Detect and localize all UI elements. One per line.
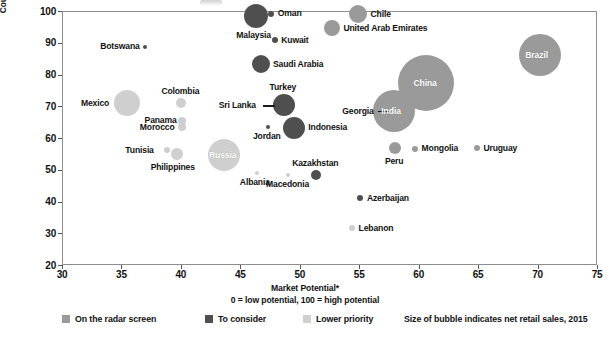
bubble-label-china: China — [413, 78, 436, 88]
legend-size-note: Size of bubble indicates net retail sale… — [404, 314, 588, 324]
x-tick-mark-65 — [478, 265, 479, 269]
x-tick-mark-60 — [419, 265, 420, 269]
bubble-label-russia: Russia — [209, 150, 237, 160]
bubble-label-georgia: Georgia — [342, 106, 373, 116]
x-tick-label-70: 70 — [523, 269, 553, 280]
x-tick-mark-75 — [597, 265, 598, 269]
bubble-botswana[interactable] — [143, 45, 147, 49]
bubble-label-peru: Peru — [385, 156, 404, 166]
legend-item-radar[interactable]: On the radar screen — [62, 314, 156, 324]
x-tick-mark-35 — [121, 265, 122, 269]
bubble-label-turkey: Turkey — [270, 82, 297, 92]
y-tick-label-40: 40 — [30, 196, 56, 207]
page-bottom-edge — [0, 335, 610, 344]
bubble-label-azerbaijan: Azerbaijan — [367, 193, 409, 203]
bubble-label-mexico: Mexico — [81, 98, 109, 108]
bubble-label-united-arab-emirates: United Arab Emirates — [343, 23, 427, 33]
y-tick-label-30: 30 — [30, 228, 56, 239]
bubble-label-uruguay: Uruguay — [483, 143, 517, 153]
bubble-jordan[interactable] — [266, 125, 270, 129]
bubble-tunisia[interactable] — [164, 147, 170, 153]
bubble-kazakhstan[interactable] — [311, 170, 321, 180]
bubble-indonesia[interactable] — [283, 117, 305, 139]
bubble-macedonia[interactable] — [286, 173, 290, 177]
x-tick-mark-50 — [300, 265, 301, 269]
x-tick-label-30: 30 — [47, 269, 77, 280]
bubble-label-mongolia: Mongolia — [422, 143, 459, 153]
x-axis-title: Market Potential* 0 = low potential, 100… — [0, 283, 610, 306]
x-tick-label-65: 65 — [463, 269, 493, 280]
bubble-albania[interactable] — [255, 171, 259, 175]
bubble-label-morocco: Morocco — [140, 122, 175, 132]
bubble-kuwait[interactable] — [272, 37, 278, 43]
bubble-label-lebanon: Lebanon — [359, 223, 394, 233]
bubble-label-philippines: Philippines — [151, 162, 195, 172]
bubble-label-colombia: Colombia — [161, 86, 199, 96]
x-tick-mark-70 — [538, 265, 539, 269]
bubble-label-india: India — [381, 106, 401, 116]
legend-swatch-consider — [205, 315, 213, 323]
bubble-united-arab-emirates[interactable] — [324, 20, 340, 36]
y-tick-label-60: 60 — [30, 133, 56, 144]
bubble-label-macedonia: Macedonia — [266, 179, 309, 189]
x-tick-mark-30 — [62, 265, 63, 269]
x-tick-label-50: 50 — [285, 269, 315, 280]
leader-line-sri-lanka — [263, 105, 275, 106]
bubble-morocco[interactable] — [178, 123, 186, 131]
bubble-philippines[interactable] — [171, 148, 183, 160]
legend-swatch-radar — [62, 315, 70, 323]
x-tick-label-75: 75 — [582, 269, 610, 280]
x-axis-title-line1: Market Potential* — [0, 283, 610, 295]
bubble-oman[interactable] — [268, 11, 274, 17]
bubble-label-botswana: Botswana — [100, 41, 139, 51]
plot-area[interactable]: BotswanaSri LankaGeorgiaJordanAlbaniaMac… — [62, 11, 597, 265]
x-tick-label-45: 45 — [225, 269, 255, 280]
bubble-uruguay[interactable] — [474, 145, 480, 151]
x-tick-mark-40 — [181, 265, 182, 269]
x-tick-label-60: 60 — [404, 269, 434, 280]
x-tick-label-55: 55 — [344, 269, 374, 280]
bubble-label-saudi-arabia: Saudi Arabia — [273, 59, 323, 69]
x-tick-label-35: 35 — [106, 269, 136, 280]
bubble-label-kazakhstan: Kazakhstan — [292, 158, 338, 168]
legend-label-consider: To consider — [218, 314, 266, 324]
bubble-label-malaysia: Malaysia — [236, 30, 271, 40]
y-axis-title: Country Risk (economic and political) 0 … — [0, 0, 20, 40]
bubble-colombia[interactable] — [176, 98, 186, 108]
y-tick-label-80: 80 — [30, 69, 56, 80]
bubble-peru[interactable] — [389, 142, 401, 154]
bubble-label-sri-lanka: Sri Lanka — [219, 100, 256, 110]
bubble-saudi-arabia[interactable] — [252, 55, 270, 73]
x-axis-title-line2: 0 = low potential, 100 = high potential — [0, 295, 610, 307]
bubble-label-kuwait: Kuwait — [281, 35, 308, 45]
y-axis-title-line1: Country Risk (economic and political) — [0, 0, 9, 40]
legend-item-lower[interactable]: Lower priority — [303, 314, 373, 324]
legend-label-lower: Lower priority — [316, 314, 373, 324]
y-tick-label-100: 100 — [30, 6, 56, 17]
bubble-lebanon[interactable] — [349, 225, 355, 231]
bubble-label-oman: Oman — [278, 8, 302, 18]
y-tick-label-70: 70 — [30, 101, 56, 112]
bubble-label-jordan: Jordan — [253, 131, 281, 141]
bubble-azerbaijan[interactable] — [357, 195, 363, 201]
y-tick-label-90: 90 — [30, 37, 56, 48]
bubble-label-brazil: Brazil — [525, 50, 548, 60]
y-tick-label-50: 50 — [30, 164, 56, 175]
scan-artifact — [200, 0, 222, 6]
x-tick-label-40: 40 — [166, 269, 196, 280]
bubble-label-indonesia: Indonesia — [308, 122, 347, 132]
bubble-mongolia[interactable] — [412, 146, 418, 152]
legend: On the radar screen To consider Lower pr… — [0, 311, 610, 333]
bubble-mexico[interactable] — [114, 90, 140, 116]
x-tick-mark-45 — [240, 265, 241, 269]
x-tick-mark-55 — [359, 265, 360, 269]
legend-swatch-lower — [303, 315, 311, 323]
legend-label-radar: On the radar screen — [75, 314, 156, 324]
bubble-chile[interactable] — [349, 5, 367, 23]
bubble-malaysia[interactable] — [244, 4, 268, 28]
legend-item-consider[interactable]: To consider — [205, 314, 266, 324]
bubble-label-tunisia: Tunisia — [125, 145, 153, 155]
bubble-label-chile: Chile — [371, 9, 391, 19]
y-axis-title-line2: 0 = high risk, 100 = low risk — [9, 0, 20, 40]
